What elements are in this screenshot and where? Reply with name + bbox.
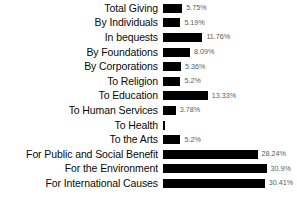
bar bbox=[163, 179, 265, 188]
bar-row-to-religion: To Religion 5.2% bbox=[0, 74, 297, 89]
bar bbox=[163, 4, 182, 13]
bar-row-by-corporations: By Corporations 5.36% bbox=[0, 59, 297, 74]
category-label: For Public and Social Benefit bbox=[0, 149, 158, 160]
bar bbox=[163, 164, 267, 173]
bar-chart-rows: Total Giving 5.75% By Individuals 5.19% … bbox=[0, 1, 297, 191]
category-label: To Health bbox=[0, 120, 158, 131]
bar-value-label: 8.09% bbox=[194, 48, 214, 56]
category-label: By Individuals bbox=[0, 17, 158, 28]
category-label: In bequests bbox=[0, 32, 158, 43]
bar bbox=[163, 77, 180, 86]
bar-row-for-the-environment: For the Environment 30.9% bbox=[0, 162, 297, 177]
bar-value-label: 5.36% bbox=[185, 63, 205, 71]
bar-track: 5.2% bbox=[158, 74, 297, 89]
bar-row-by-foundations: By Foundations 8.09% bbox=[0, 45, 297, 60]
bar-track: 11.76% bbox=[158, 30, 297, 45]
bar-track: 8.09% bbox=[158, 45, 297, 60]
bar-row-to-health: To Health bbox=[0, 118, 297, 133]
bar-value-label: 13.33% bbox=[212, 92, 236, 100]
bar-value-label: 30.9% bbox=[271, 165, 291, 173]
bar-value-label: 3.78% bbox=[180, 106, 200, 114]
bar-value-label: 30.41% bbox=[269, 179, 293, 187]
bar-row-to-education: To Education 13.33% bbox=[0, 89, 297, 104]
bar-track: 5.75% bbox=[158, 1, 297, 16]
bar-value-label: 5.19% bbox=[184, 19, 204, 27]
bar-value-label: 5.75% bbox=[186, 4, 206, 12]
bar-track: 30.41% bbox=[158, 176, 297, 191]
bar-track: 3.78% bbox=[158, 103, 297, 118]
bar bbox=[163, 62, 181, 71]
bar-row-total-giving: Total Giving 5.75% bbox=[0, 1, 297, 16]
bar-track: 13.33% bbox=[158, 89, 297, 104]
bar-value-label: 11.76% bbox=[206, 33, 230, 41]
category-label: To Human Services bbox=[0, 105, 158, 116]
bar-row-for-international-causes: For International Causes 30.41% bbox=[0, 176, 297, 191]
bar bbox=[163, 135, 180, 144]
bar-row-in-bequests: In bequests 11.76% bbox=[0, 30, 297, 45]
bar bbox=[163, 91, 208, 100]
bar-track: 5.19% bbox=[158, 16, 297, 31]
bar bbox=[163, 48, 190, 57]
category-label: Total Giving bbox=[0, 3, 158, 14]
bar-row-by-individuals: By Individuals 5.19% bbox=[0, 16, 297, 31]
category-label: To Education bbox=[0, 90, 158, 101]
bar bbox=[163, 18, 180, 27]
bar-value-label: 5.2% bbox=[184, 136, 200, 144]
bar-track: 30.9% bbox=[158, 162, 297, 177]
bar-track: 5.2% bbox=[158, 132, 297, 147]
bar-value-label: 5.2% bbox=[184, 77, 200, 85]
bar-track bbox=[158, 118, 297, 133]
category-label: To the Arts bbox=[0, 134, 158, 145]
bar-chart: Total Giving 5.75% By Individuals 5.19% … bbox=[0, 0, 297, 197]
category-label: To Religion bbox=[0, 76, 158, 87]
bar-track: 28.24% bbox=[158, 147, 297, 162]
category-label: By Foundations bbox=[0, 47, 158, 58]
bar-row-to-the-arts: To the Arts 5.2% bbox=[0, 132, 297, 147]
category-label: By Corporations bbox=[0, 61, 158, 72]
bar-track: 5.36% bbox=[158, 59, 297, 74]
category-label: For the Environment bbox=[0, 163, 158, 174]
bar bbox=[163, 33, 202, 42]
bar bbox=[163, 150, 258, 159]
category-label: For International Causes bbox=[0, 178, 158, 189]
bar bbox=[163, 121, 165, 130]
bar-row-for-public-and-social-benefit: For Public and Social Benefit 28.24% bbox=[0, 147, 297, 162]
bar-value-label: 28.24% bbox=[262, 150, 286, 158]
bar bbox=[163, 106, 176, 115]
bar-row-to-human-services: To Human Services 3.78% bbox=[0, 103, 297, 118]
